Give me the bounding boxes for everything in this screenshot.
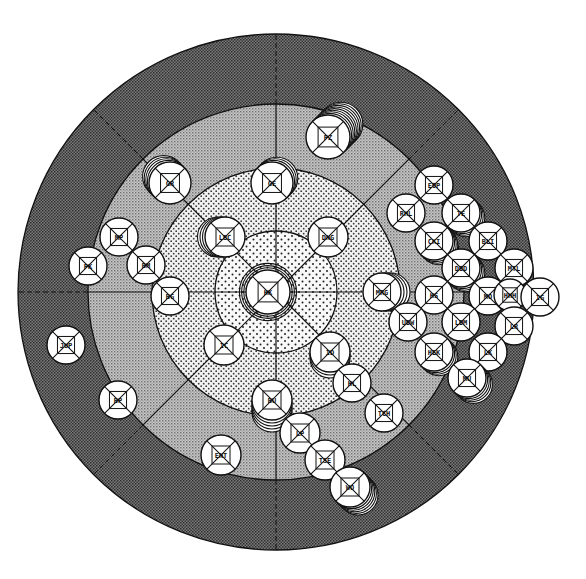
node-label: HL [348,380,356,388]
node-label: HS [430,292,438,300]
node-label: WO [346,484,354,492]
node[interactable]: JUP [47,326,85,364]
node-label: MU [463,375,471,383]
node-label: HEK [428,349,441,357]
node-label: BG [166,293,174,301]
node-label: LBC [219,234,232,242]
node-label: TSE [319,457,332,465]
node-label: UDW [402,319,415,327]
radial-bullseye-diagram: HKGEGRLBCDNGPZMPPKBMBGJUPBPICIDHLTCHBULP… [0,0,586,579]
node[interactable]: EOP [415,166,453,204]
node-label: TCH [378,410,391,418]
node[interactable]: HK [239,263,296,320]
node[interactable]: TCH [365,394,403,432]
node-label: ENT [215,452,228,460]
node[interactable]: ENT [201,435,241,475]
node[interactable]: DNG [308,217,348,257]
node-label: GR [166,180,175,188]
node-label: JUP [60,342,73,350]
node-label: IG [536,294,544,302]
node[interactable]: LDM [442,303,480,341]
node-label: HK [264,289,273,297]
node[interactable]: RHL [387,194,425,232]
node-label: EOP [428,182,441,190]
node-label: TE [457,210,465,218]
node-label: MRG [376,289,389,297]
node-label: GE [268,180,276,188]
node[interactable]: BP [99,381,137,419]
node-label: LP [296,430,304,438]
node-label: BU [268,397,276,405]
node[interactable]: BG [151,277,189,315]
node-label: BM [142,262,150,270]
node-label: MTL [508,265,521,273]
node-label: LK [484,349,493,357]
node-label: IC [220,342,228,350]
node-label: DNG [322,234,335,242]
node-label: HHH [504,292,517,300]
node[interactable]: MP [100,218,138,256]
node-label: CKI [428,238,441,246]
node-label: LDM [455,319,468,327]
node-label: DOD [455,265,468,273]
node-label: PZ [324,134,332,142]
node-label: MO [484,293,492,301]
node-label: PK [84,263,93,271]
node-label: LR [510,323,519,331]
node[interactable]: IC [204,325,244,365]
node[interactable]: UDW [389,303,427,341]
node-label: RHL [400,210,413,218]
node-label: BLI [482,238,495,246]
node[interactable]: HL [333,364,371,402]
node[interactable]: IG [521,278,559,316]
diagram-canvas: HKGEGRLBCDNGPZMPPKBMBGJUPBPICIDHLTCHBULP… [0,0,586,579]
node-label: BP [114,397,122,405]
node[interactable]: BM [127,246,165,284]
node-label: ID [326,349,334,357]
node[interactable]: LBC [198,217,246,257]
node-label: MP [115,234,123,242]
node[interactable]: PK [69,247,107,285]
